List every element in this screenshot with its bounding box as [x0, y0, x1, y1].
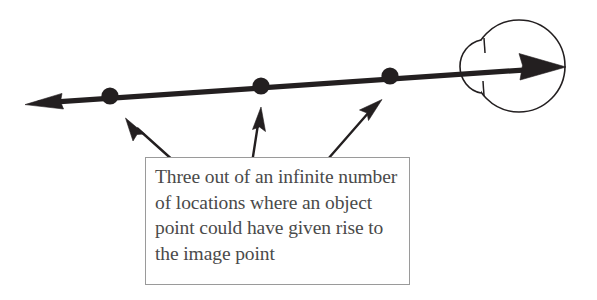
- pointer-to-near-point-head-icon: [126, 118, 145, 141]
- object-point-near: [101, 87, 118, 104]
- optics-diagram-figure: Three out of an infinite number of locat…: [0, 0, 597, 300]
- pointer-to-middle-point-head-icon: [253, 107, 266, 132]
- caption-line-1: Three out of an infinite number: [155, 164, 407, 190]
- caption-line-2: of locations where an object: [155, 190, 407, 216]
- left-arrowhead-icon: [25, 93, 64, 109]
- cornea-bottom-tick-icon: [483, 81, 484, 96]
- object-point-far: [381, 67, 398, 84]
- cornea-bulge-icon: [460, 40, 481, 93]
- cornea-top-tick-icon: [484, 38, 485, 53]
- object-point-middle: [252, 77, 269, 94]
- caption-line-4: the image point: [155, 241, 407, 267]
- caption-line-3: point could have given rise to: [155, 215, 407, 241]
- caption-text-block: Three out of an infinite number of locat…: [155, 164, 407, 266]
- pointer-to-far-point-shaft: [328, 112, 370, 160]
